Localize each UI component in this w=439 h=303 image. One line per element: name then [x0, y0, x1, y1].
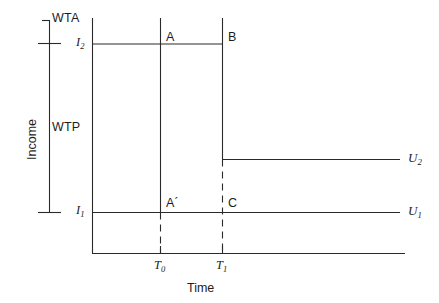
bracket-label-wta: WTA	[52, 12, 79, 25]
x-tick-label-t1-base: T	[216, 258, 223, 272]
curve-label-u2-subscript: 2	[417, 157, 421, 167]
wtp-wta-income-time-diagram: Income Time WTA WTP I2 I1 T0 T1 A B A´ C…	[0, 0, 439, 303]
y-value-label-i1: I1	[76, 204, 84, 217]
y-value-label-i1-subscript: 1	[80, 209, 84, 219]
x-tick-label-t1: T1	[216, 259, 227, 272]
point-label-c: C	[228, 197, 237, 210]
point-label-b: B	[228, 31, 237, 44]
x-axis-title: Time	[187, 282, 214, 295]
y-value-label-i2: I2	[76, 36, 84, 49]
x-tick-label-t0-base: T	[154, 258, 161, 272]
x-tick-label-t0: T0	[154, 259, 165, 272]
point-label-a: A	[166, 31, 175, 44]
point-label-a-prime: A´	[166, 197, 179, 210]
x-tick-label-t0-subscript: 0	[161, 264, 165, 274]
x-tick-label-t1-subscript: 1	[223, 264, 227, 274]
curve-label-u1-subscript: 1	[417, 210, 421, 220]
bracket-label-wtp: WTP	[52, 121, 80, 134]
curve-label-u1: U1	[408, 204, 422, 217]
y-axis-title: Income	[26, 119, 39, 160]
curve-label-u1-base: U	[408, 203, 417, 218]
curve-label-u2: U2	[408, 151, 422, 164]
curve-label-u2-base: U	[408, 150, 417, 165]
y-value-label-i2-subscript: 2	[80, 41, 84, 51]
